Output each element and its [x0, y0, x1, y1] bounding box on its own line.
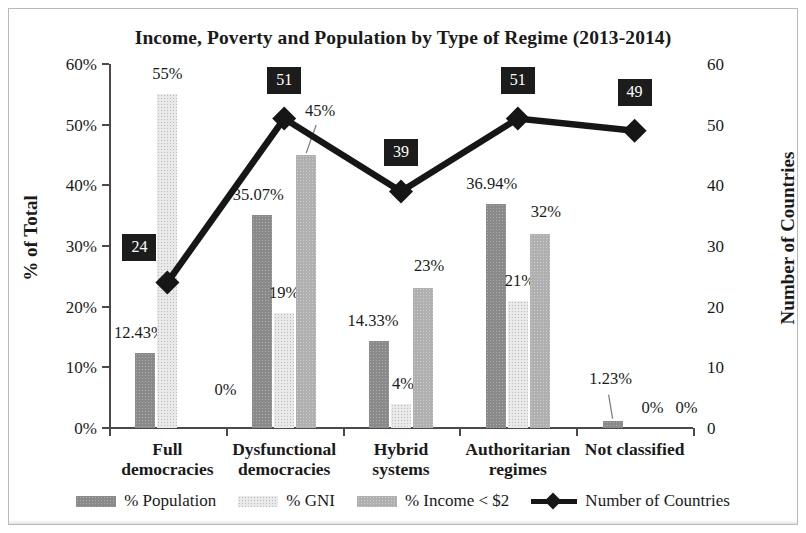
chart-legend: % Population% GNI% Income < $2Number of … [9, 491, 797, 511]
x-axis-tick [576, 428, 578, 436]
y-axis-right-tick-label: 20 [707, 298, 724, 315]
legend-item[interactable]: % Population [76, 491, 216, 511]
y-axis-right-tick-label: 0 [707, 420, 716, 437]
x-axis-tick [109, 428, 111, 436]
legend-item[interactable]: % Income < $2 [357, 491, 509, 511]
y-axis-left-tick-label: 40% [66, 177, 97, 194]
line-value-label: 49 [618, 79, 652, 106]
y-axis-right-tick-label: 50 [707, 116, 724, 133]
line-value-label: 24 [122, 234, 156, 261]
x-axis-category-label: Hybridsystems [372, 440, 429, 479]
x-axis-category-label: Authoritarianregimes [465, 440, 570, 479]
chart-title: Income, Poverty and Population by Type o… [9, 27, 797, 49]
line-value-label: 39 [384, 139, 418, 166]
scan-edge [9, 520, 797, 524]
x-axis-category-label: Dysfunctionaldemocracies [232, 440, 336, 479]
chart-frame: Income, Poverty and Population by Type o… [8, 8, 798, 525]
x-axis-category-label-line: Authoritarian [465, 440, 570, 460]
line-value-label: 51 [501, 67, 535, 94]
y-axis-right-tick-label: 60 [707, 56, 724, 73]
legend-swatch [238, 496, 278, 507]
y-axis-left-tick-label: 10% [66, 359, 97, 376]
x-axis-tick [693, 428, 695, 436]
x-axis-category-label-line: Not classified [585, 440, 685, 460]
y-axis-left-tick [102, 245, 109, 247]
y-axis-left-tick [102, 366, 109, 368]
y-axis-right-tick-label: 10 [707, 359, 724, 376]
y-axis-left-tick-label: 20% [66, 298, 97, 315]
label-leader-line [109, 64, 693, 428]
y-axis-left-tick [102, 184, 109, 186]
legend-label: % GNI [286, 491, 335, 511]
y-axis-right-tick-label: 30 [707, 238, 724, 255]
plot-inner: 0%10%20%30%40%50%60% 0102030405060 12.43… [109, 64, 693, 428]
y-axis-left-tick [102, 63, 109, 65]
x-axis-category-label-line: systems [372, 460, 429, 480]
x-axis-category-label-line: Dysfunctional [232, 440, 336, 460]
x-axis-category-label: Not classified [585, 440, 685, 460]
legend-label: Number of Countries [585, 491, 729, 511]
y-axis-left-tick-label: 30% [66, 238, 97, 255]
x-axis-tick [226, 428, 228, 436]
y-axis-right-tick-label: 40 [707, 177, 724, 194]
legend-line-marker-icon [531, 494, 577, 508]
legend-swatch [357, 496, 397, 507]
y-axis-left-tick [102, 427, 109, 429]
x-axis-category-label-line: Hybrid [372, 440, 429, 460]
x-axis-category-label-line: democracies [232, 460, 336, 480]
x-axis-category-label: Fulldemocracies [121, 440, 213, 479]
line-value-label: 51 [267, 67, 301, 94]
y-axis-left-title: % of Total [20, 168, 42, 308]
legend-label: % Population [124, 491, 216, 511]
x-axis-category-label-line: Full [121, 440, 213, 460]
legend-swatch [76, 496, 116, 507]
y-axis-left-tick [102, 306, 109, 308]
y-axis-left-tick-label: 60% [66, 56, 97, 73]
y-axis-right-title: Number of Countries [777, 143, 799, 333]
legend-label: % Income < $2 [405, 491, 509, 511]
x-axis-tick [343, 428, 345, 436]
y-axis-left-tick-label: 50% [66, 116, 97, 133]
y-axis-left-tick [102, 124, 109, 126]
legend-item[interactable]: Number of Countries [531, 491, 729, 511]
legend-item[interactable]: % GNI [238, 491, 335, 511]
plot-area: 0%10%20%30%40%50%60% 0102030405060 12.43… [109, 64, 693, 428]
x-axis-category-label-line: regimes [465, 460, 570, 480]
x-axis-tick [459, 428, 461, 436]
y-axis-left-tick-label: 0% [74, 420, 97, 437]
x-axis-category-label-line: democracies [121, 460, 213, 480]
